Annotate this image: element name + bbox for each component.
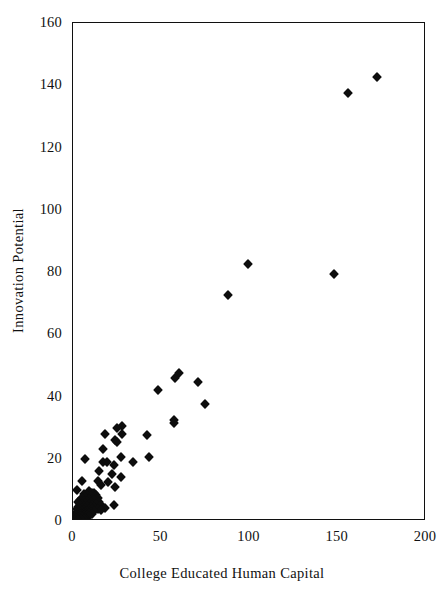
data-point: [223, 290, 233, 300]
data-point: [343, 88, 353, 98]
data-point: [95, 466, 105, 476]
data-point: [372, 73, 382, 83]
data-point: [116, 472, 126, 482]
y-tick-label: 20: [47, 449, 62, 466]
x-tick-label: 150: [326, 528, 348, 545]
x-tick-label: 50: [153, 528, 168, 545]
y-tick-label: 80: [47, 263, 62, 280]
data-point: [128, 457, 138, 467]
y-tick-label: 100: [40, 200, 62, 217]
data-point: [98, 444, 108, 454]
data-point: [117, 429, 127, 439]
data-point: [144, 452, 154, 462]
x-axis-tick-labels: 050100150200: [0, 528, 444, 554]
data-point: [193, 378, 203, 388]
scatter-plot-figure: Innovation Potential 0204060801001201401…: [0, 0, 444, 604]
data-point: [329, 269, 339, 279]
x-tick-label: 100: [237, 528, 259, 545]
y-axis-tick-labels: 020406080100120140160: [0, 0, 68, 604]
data-point: [142, 430, 152, 440]
data-point: [200, 399, 210, 409]
y-tick-label: 40: [47, 387, 62, 404]
y-tick-label: 60: [47, 325, 62, 342]
data-point: [116, 452, 126, 462]
data-point: [110, 482, 120, 492]
x-tick-label: 0: [68, 528, 75, 545]
data-point: [153, 385, 163, 395]
data-point: [77, 476, 87, 486]
y-tick-label: 140: [40, 76, 62, 93]
data-points-layer: [73, 23, 424, 519]
x-tick-label: 200: [414, 528, 436, 545]
y-tick-label: 120: [40, 138, 62, 155]
y-tick-label: 160: [40, 14, 62, 31]
data-point: [80, 454, 90, 464]
data-point: [109, 500, 119, 510]
data-point: [243, 259, 253, 269]
x-axis-title: College Educated Human Capital: [0, 565, 444, 582]
data-point: [100, 429, 110, 439]
y-tick-label: 0: [55, 512, 62, 529]
plot-frame: [72, 22, 425, 520]
